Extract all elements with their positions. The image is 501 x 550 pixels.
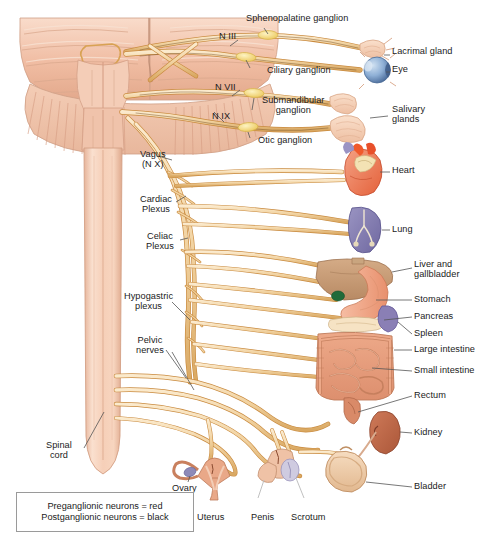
legend-line-preganglionic: Preganglionic neurons = red (47, 501, 162, 513)
neuron-color-legend: Preganglionic neurons = red Postganglion… (16, 492, 194, 532)
label-lung: Lung (392, 224, 413, 234)
label-spleen: Spleen (414, 328, 443, 338)
label-pancreas: Pancreas (414, 311, 453, 321)
label-vagus-nerve: Vagus (N X) (140, 149, 166, 170)
label-pelvic-nerves: Pelvic nerves (136, 335, 164, 356)
label-sphenopalatine-ganglion: Sphenopalatine ganglion (246, 13, 348, 23)
label-cardiac-plexus: Cardiac Plexus (140, 194, 172, 215)
label-large-intestine: Large intestine (414, 344, 475, 354)
lung-graphic (348, 207, 380, 253)
label-submandibular-ganglion: Submandibular ganglion (262, 95, 324, 116)
legend-line-postganglionic: Postganglionic neurons = black (41, 512, 168, 524)
spinal-cord-graphic (84, 148, 122, 474)
label-n-ix: N IX (212, 111, 230, 121)
gallbladder-graphic (332, 291, 345, 301)
label-small-intestine: Small intestine (414, 365, 475, 375)
penis-scrotum-graphic (258, 449, 304, 498)
intestines-graphic (316, 332, 394, 400)
kidney-graphic (356, 411, 400, 460)
label-salivary-glands: Salivary glands (392, 104, 425, 125)
eye-graphic (359, 52, 396, 89)
label-stomach: Stomach (414, 294, 451, 304)
label-hypogastric-plexus: Hypogastric plexus (124, 291, 173, 312)
label-rectum: Rectum (414, 390, 446, 400)
label-ciliary-ganglion: Ciliary ganglion (267, 65, 331, 75)
label-celiac-plexus: Celiac Plexus (146, 231, 174, 252)
label-uterus: Uterus (197, 512, 224, 522)
label-penis: Penis (251, 512, 274, 522)
label-n-vii: N VII (215, 82, 236, 92)
heart-graphic (343, 142, 382, 196)
label-lacrimal-gland: Lacrimal gland (392, 46, 452, 56)
label-bladder: Bladder (414, 481, 446, 491)
label-otic-ganglion: Otic ganglion (258, 135, 312, 145)
label-eye: Eye (392, 64, 408, 74)
label-liver-gallbladder: Liver and gallbladder (414, 259, 460, 280)
label-n-iii: N III (219, 31, 236, 41)
label-spinal-cord: Spinal cord (46, 440, 72, 461)
label-heart: Heart (392, 165, 415, 175)
label-scrotum: Scrotum (291, 512, 326, 522)
salivary-glands-graphic (330, 94, 365, 143)
label-kidney: Kidney (414, 427, 442, 437)
anatomical-figure-canvas: N III N VII N IX Sphenopalatine ganglion… (0, 0, 501, 550)
rectum-graphic (344, 398, 360, 424)
pancreas-graphic (328, 317, 383, 332)
